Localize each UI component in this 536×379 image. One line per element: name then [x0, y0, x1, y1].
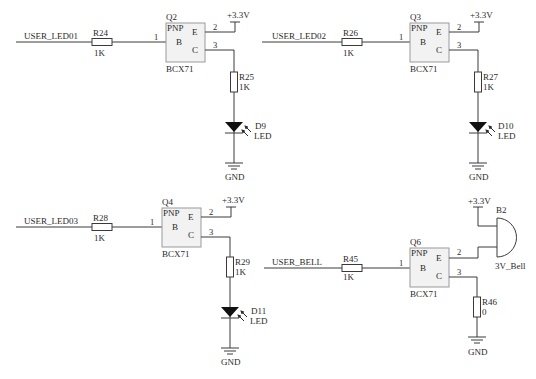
transistor-part: BCX71 [410, 64, 438, 74]
resistor-ref: R27 [483, 72, 499, 82]
pin-c: C [436, 271, 442, 281]
pin-1-label: 1 [399, 32, 403, 42]
emitter-wire [205, 22, 235, 32]
pin-1-label: 1 [150, 217, 154, 227]
pin-1-label: 1 [399, 258, 403, 268]
pin-2-label: 2 [457, 247, 461, 257]
circuit-user-led01: USER_LED01 R24 1K 1 Q2 PNP B E C BCX71 +… [16, 10, 272, 182]
supply-label: +3.3V [222, 195, 245, 205]
ground-icon [221, 348, 239, 354]
pin-2-label: 2 [213, 22, 217, 32]
led-value: LED [498, 131, 516, 141]
transistor-part: BCX71 [166, 64, 194, 74]
pin-2-label: 2 [209, 207, 213, 217]
bell-value: 3V_Bell [495, 261, 526, 271]
transistor-ref: Q4 [162, 197, 173, 207]
resistor-value: 1K [343, 48, 355, 58]
resistor-ref: R28 [93, 213, 109, 223]
transistor-part: BCX71 [410, 289, 438, 299]
supply-label: +3.3V [470, 10, 493, 20]
resistor-ref: R46 [482, 297, 498, 307]
led-d11[interactable] [221, 307, 247, 321]
resistor-ref: R26 [343, 28, 359, 38]
ground-icon [469, 163, 487, 169]
net-label: USER_LED02 [272, 31, 326, 41]
pin-3-label: 3 [213, 40, 217, 50]
pin-3-label: 3 [457, 40, 461, 50]
resistor-value: 1K [483, 82, 495, 92]
bell-icon[interactable] [497, 218, 517, 257]
pin-2-label: 2 [457, 22, 461, 32]
led-d10[interactable] [469, 122, 495, 136]
ground-label: GND [225, 172, 245, 182]
resistor-value: 1K [235, 267, 247, 277]
transistor-ref: Q3 [410, 12, 421, 22]
resistor-r28[interactable] [92, 224, 112, 231]
net-label: USER_BELL [272, 257, 322, 267]
led-value: LED [250, 316, 268, 326]
transistor-type: PNP [411, 248, 428, 258]
supply-label: +3.3V [227, 10, 250, 20]
collector-wire [449, 277, 477, 297]
led-ref: D9 [255, 121, 266, 131]
transistor-part: BCX71 [162, 249, 190, 259]
pin-c: C [188, 230, 194, 240]
pin-3-label: 3 [209, 227, 213, 237]
ground-label: GND [221, 357, 241, 367]
pin-e: E [192, 27, 198, 37]
supply-label: +3.3V [468, 196, 491, 206]
transistor-ref: Q2 [166, 12, 177, 22]
emitter-wire [449, 22, 479, 32]
pin-e: E [436, 27, 442, 37]
resistor-r29[interactable] [227, 257, 234, 277]
led-ref: D11 [251, 306, 266, 316]
pin-b: B [176, 37, 182, 47]
pin-b: B [172, 222, 178, 232]
ground-label: GND [468, 347, 488, 357]
led-ref: D10 [498, 121, 514, 131]
collector-wire [449, 50, 478, 72]
pin-e: E [436, 253, 442, 263]
circuit-user-bell: USER_BELL R45 1K 1 Q6 PNP B E C BCX71 2 … [264, 196, 526, 357]
resistor-r45[interactable] [342, 265, 362, 272]
transistor-type: PNP [167, 23, 184, 33]
pin-e: E [188, 212, 194, 222]
resistor-value: 0 [482, 307, 487, 317]
transistor-ref: Q6 [410, 237, 421, 247]
transistor-type: PNP [163, 208, 180, 218]
resistor-ref: R24 [93, 28, 109, 38]
resistor-value: 1K [94, 48, 106, 58]
resistor-value: 1K [343, 272, 355, 282]
pin-b: B [420, 263, 426, 273]
pin-b: B [420, 37, 426, 47]
emitter-wire [201, 207, 231, 217]
resistor-r26[interactable] [342, 39, 362, 46]
collector-wire [201, 237, 230, 257]
pin-3-label: 3 [457, 267, 461, 277]
resistor-value: 1K [239, 82, 251, 92]
resistor-ref: R25 [239, 72, 255, 82]
collector-wire [205, 50, 234, 72]
ground-icon [468, 337, 486, 343]
ground-icon [225, 163, 243, 169]
pin-c: C [436, 45, 442, 55]
pin-c: C [192, 45, 198, 55]
resistor-ref: R45 [343, 254, 359, 264]
net-label: USER_LED03 [24, 216, 79, 226]
resistor-r24[interactable] [92, 39, 112, 46]
bell-supply-wire [478, 207, 497, 226]
pin-1-label: 1 [154, 32, 158, 42]
resistor-value: 1K [94, 233, 106, 243]
circuit-user-led02: USER_LED02 R26 1K 1 Q3 PNP B E C BCX71 +… [262, 10, 516, 182]
circuit-user-led03: USER_LED03 R28 1K 1 Q4 PNP B E C BCX71 +… [16, 195, 268, 367]
transistor-type: PNP [411, 23, 428, 33]
resistor-r46[interactable] [474, 297, 481, 317]
schematic-canvas: USER_LED01 R24 1K 1 Q2 PNP B E C BCX71 +… [0, 0, 536, 379]
led-d9[interactable] [225, 122, 251, 136]
resistor-r25[interactable] [231, 72, 238, 92]
resistor-r27[interactable] [475, 72, 482, 92]
ground-label: GND [469, 172, 489, 182]
net-label: USER_LED01 [24, 31, 78, 41]
resistor-ref: R29 [235, 257, 251, 267]
led-value: LED [254, 131, 272, 141]
